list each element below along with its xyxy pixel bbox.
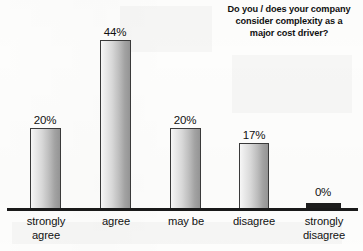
bar-value-label: 0%: [294, 186, 352, 198]
x-tick-label-strongly-agree: strongly agree: [14, 215, 78, 242]
x-tick-label-may-be: may be: [154, 215, 218, 229]
bar-value-label: 44%: [86, 26, 144, 38]
x-axis-line: [7, 208, 358, 211]
bar-agree: [100, 40, 131, 209]
bar-strongly-agree: [30, 128, 61, 209]
x-tick-label-strongly-disagree: strongly disagree: [292, 215, 356, 242]
x-tick-line-2: disagree: [292, 229, 356, 243]
bar-disagree: [239, 143, 269, 209]
x-tick-line-2: agree: [14, 229, 78, 243]
bar-value-label: 20%: [156, 114, 214, 126]
x-tick-line-1: strongly: [14, 215, 78, 229]
bar-may-be: [170, 128, 201, 209]
x-tick-line-1: agree: [84, 215, 148, 229]
x-tick-label-agree: agree: [84, 215, 148, 229]
bar-value-label: 17%: [225, 129, 283, 141]
x-tick-line-1: disagree: [222, 215, 286, 229]
bar-value-label: 20%: [16, 114, 74, 126]
x-tick-line-1: strongly: [292, 215, 356, 229]
x-tick-label-disagree: disagree: [222, 215, 286, 229]
x-tick-line-1: may be: [154, 215, 218, 229]
chart-figure: Do you / does your company consider comp…: [0, 0, 363, 251]
plot-area: 20% 44% 20% 17% 0% strongly agree agree …: [0, 0, 363, 251]
